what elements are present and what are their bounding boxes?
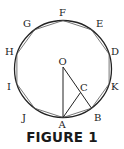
- label-G: G: [23, 18, 31, 29]
- label-H: H: [5, 46, 14, 57]
- segment-AC: [63, 93, 81, 118]
- label-K: K: [111, 81, 119, 92]
- label-D: D: [111, 46, 119, 57]
- label-B: B: [94, 112, 101, 123]
- label-C: C: [80, 82, 88, 93]
- label-O: O: [59, 56, 67, 67]
- label-J: J: [21, 112, 26, 123]
- label-F: F: [59, 7, 66, 18]
- figure-caption: FIGURE 1: [0, 129, 124, 145]
- label-E: E: [96, 18, 103, 29]
- label-I: I: [7, 81, 11, 92]
- decagon-diagram: O C A B K D E F G H I J: [0, 0, 124, 149]
